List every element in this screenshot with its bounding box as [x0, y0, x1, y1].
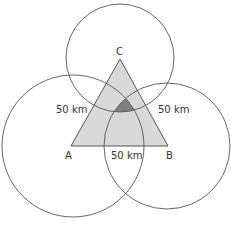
label-b: B — [166, 150, 173, 161]
distance-bc: 50 km — [158, 104, 189, 115]
distance-ac: 50 km — [56, 104, 87, 115]
trilateration-diagram: C A B 50 km 50 km 50 km — [0, 0, 231, 227]
triangle-abc — [71, 59, 168, 146]
label-c: C — [116, 46, 123, 57]
distance-ab: 50 km — [111, 150, 142, 161]
label-a: A — [65, 150, 72, 161]
